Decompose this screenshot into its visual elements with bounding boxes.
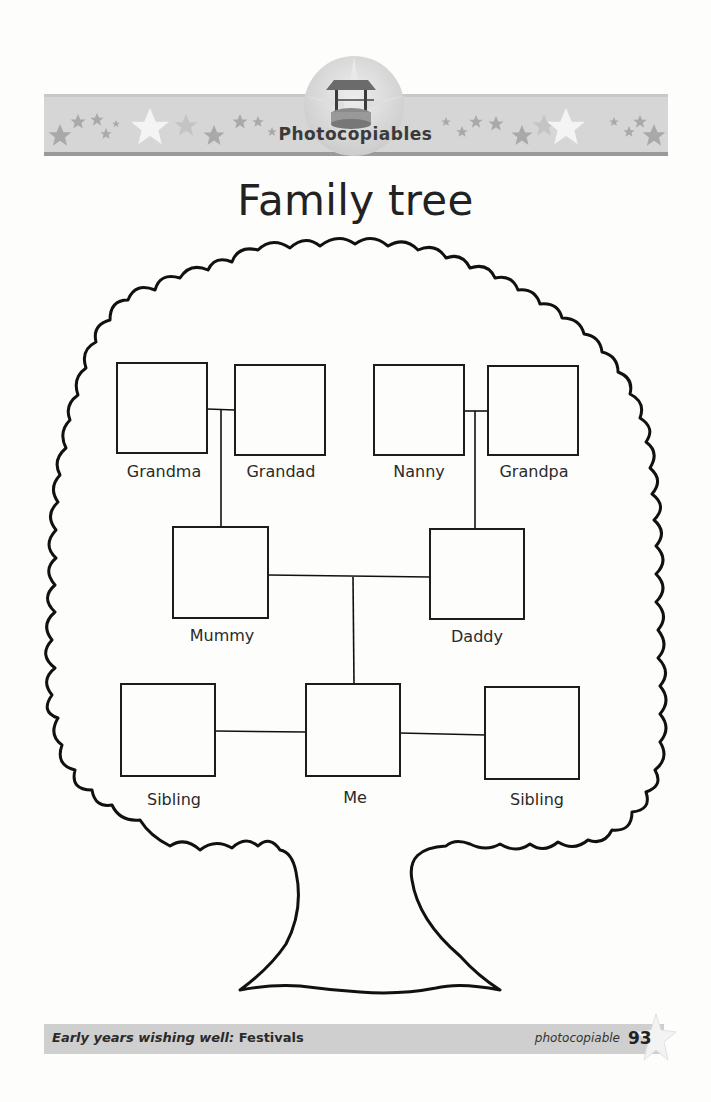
tree-outline-drawing: [0, 0, 711, 1102]
photo-box-grandad[interactable]: [234, 364, 326, 456]
photo-box-sibling-right[interactable]: [484, 686, 580, 780]
footer-bar: Early years wishing well: Festivals phot…: [44, 1024, 664, 1054]
photo-box-nanny[interactable]: [373, 364, 465, 456]
label-grandma: Grandma: [104, 462, 224, 481]
label-sibling-right: Sibling: [477, 790, 597, 809]
footer-photocopiable-note: photocopiable: [535, 1031, 620, 1045]
label-nanny: Nanny: [359, 462, 479, 481]
photo-box-sibling-left[interactable]: [120, 683, 216, 777]
label-daddy: Daddy: [417, 627, 537, 646]
photo-box-grandpa[interactable]: [487, 365, 579, 456]
tree-canopy-outline: [46, 238, 666, 992]
photo-box-grandma[interactable]: [116, 362, 208, 454]
photo-box-mummy[interactable]: [172, 526, 269, 619]
label-me: Me: [295, 788, 415, 807]
footer-book-title: Early years wishing well: Festivals: [52, 1030, 304, 1045]
photo-box-me[interactable]: [305, 683, 401, 777]
footer-book-title-prefix: Early years wishing well:: [52, 1030, 239, 1045]
label-grandad: Grandad: [221, 462, 341, 481]
footer-book-title-bold: Festivals: [239, 1030, 304, 1045]
label-mummy: Mummy: [162, 626, 282, 645]
photo-box-daddy[interactable]: [429, 528, 525, 620]
label-grandpa: Grandpa: [474, 462, 594, 481]
page-number: 93: [628, 1028, 652, 1048]
label-sibling-left: Sibling: [114, 790, 234, 809]
